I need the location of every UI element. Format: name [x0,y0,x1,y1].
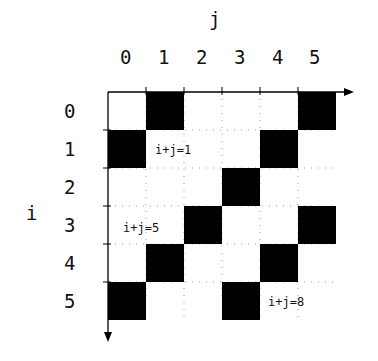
filled-cell [108,282,146,320]
filled-cell [146,244,184,282]
filled-cell [146,92,184,130]
annotation-diagonal-1: i+j=1 [155,144,191,156]
filled-cell [222,282,260,320]
filled-cell [184,206,222,244]
annotation-diagonal-8: i+j=8 [268,296,304,308]
filled-cell [298,206,336,244]
filled-cell [222,168,260,206]
filled-cell [298,92,336,130]
annotation-diagonal-5: i+j=5 [123,222,159,234]
filled-cell [260,244,298,282]
matrix-grid [0,0,378,361]
filled-cell [260,130,298,168]
filled-cell [108,130,146,168]
